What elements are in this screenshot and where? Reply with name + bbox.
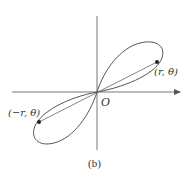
point-positive <box>155 60 159 64</box>
curve-upper-lobe <box>97 42 163 92</box>
figure-caption: (b) <box>88 157 101 170</box>
label-r-theta: (r, θ) <box>154 66 178 77</box>
figure-canvas: (r, θ) (−r, θ) O (b) <box>0 0 185 178</box>
point-negative <box>37 120 41 124</box>
polar-figure: (r, θ) (−r, θ) O (b) <box>0 0 185 178</box>
label-origin: O <box>101 96 110 109</box>
curve-lower-lobe <box>34 92 97 144</box>
label-neg-r-theta: (−r, θ) <box>8 107 40 118</box>
